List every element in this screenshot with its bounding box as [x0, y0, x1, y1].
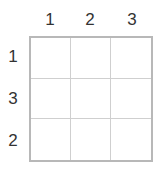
grid-cell-r3c1[interactable] [31, 119, 71, 160]
column-clue-1: 1 [40, 10, 60, 30]
grid-cell-r2c1[interactable] [31, 79, 71, 120]
grid-cell-r1c1[interactable] [31, 38, 71, 79]
grid-cell-r1c3[interactable] [111, 38, 151, 79]
grid-cell-r2c2[interactable] [71, 79, 111, 120]
column-clue-2: 2 [80, 10, 100, 30]
grid-cell-r2c3[interactable] [111, 79, 151, 120]
puzzle-grid [29, 36, 153, 162]
column-clue-3: 3 [122, 10, 142, 30]
row-clue-2: 3 [3, 89, 23, 109]
row-clue-1: 1 [3, 47, 23, 67]
grid-cell-r3c3[interactable] [111, 119, 151, 160]
grid-cell-r3c2[interactable] [71, 119, 111, 160]
row-clue-3: 2 [3, 131, 23, 151]
grid-cell-r1c2[interactable] [71, 38, 111, 79]
